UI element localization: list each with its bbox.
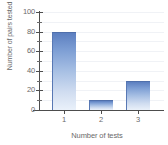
bar-category-1 bbox=[52, 32, 76, 110]
x-tick-label-2: 2 bbox=[89, 115, 113, 124]
x-tick-1 bbox=[64, 110, 65, 114]
x-tick-3 bbox=[138, 110, 139, 114]
y-tick-label-0: 0 bbox=[5, 106, 35, 114]
bar-chart: 100 80 60 40 20 0 1 2 3 Number of pairs … bbox=[0, 0, 168, 145]
y-tick-minor-70 bbox=[37, 41, 42, 42]
y-tick-label-20: 20 bbox=[5, 86, 35, 94]
gridline bbox=[40, 22, 164, 23]
y-tick-20 bbox=[36, 90, 43, 91]
x-axis-line bbox=[33, 110, 164, 111]
bar-category-3 bbox=[126, 81, 150, 110]
x-axis-title: Number of tests bbox=[30, 131, 164, 140]
gridline bbox=[40, 12, 164, 13]
y-tick-minor-50 bbox=[37, 61, 42, 62]
x-tick-2 bbox=[101, 110, 102, 114]
y-tick-minor-90 bbox=[37, 22, 42, 23]
y-tick-80 bbox=[36, 32, 43, 33]
y-axis-title: Number of pairs tested bbox=[4, 0, 16, 83]
bar-category-2 bbox=[89, 100, 113, 110]
y-tick-40 bbox=[36, 71, 43, 72]
y-tick-60 bbox=[36, 51, 43, 52]
y-tick-100 bbox=[36, 12, 43, 13]
y-tick-minor-30 bbox=[37, 81, 42, 82]
x-tick-label-3: 3 bbox=[126, 115, 150, 124]
y-tick-minor-10 bbox=[37, 100, 42, 101]
y-tick-0 bbox=[36, 110, 43, 111]
x-tick-label-1: 1 bbox=[52, 115, 76, 124]
